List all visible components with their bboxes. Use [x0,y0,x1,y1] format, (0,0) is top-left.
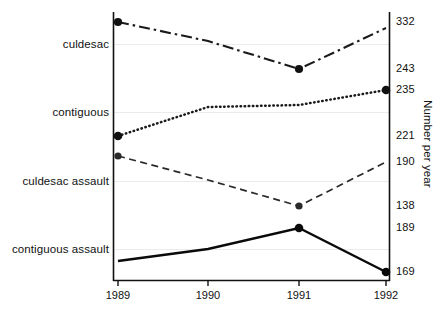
series-label-contiguous: contiguous [52,106,109,118]
x-tick-label-1990: 1990 [186,289,230,301]
chart-container: culdesac contiguous culdesac assault con… [0,0,443,314]
right-tick-189: 189 [396,221,415,233]
data-point-culdesac-1989 [114,18,122,26]
right-tick-190: 190 [396,155,415,167]
data-point-contiguous-assault-1991 [295,224,304,233]
x-tick-label-1991: 1991 [277,289,321,301]
data-point-culdesac-assault-1989 [114,152,121,159]
right-tick-243: 243 [396,62,415,74]
data-point-contiguous-1989 [114,132,123,141]
gridlines [113,45,390,250]
data-point-contiguous-assault-1992 [382,268,391,277]
data-point-culdesac-assault-1991 [295,202,302,209]
data-point-contiguous-1992 [382,86,391,95]
right-tick-138: 138 [396,199,415,211]
right-tick-332: 332 [396,15,415,27]
right-tick-235: 235 [396,83,415,95]
x-tick-label-1989: 1989 [96,289,140,301]
data-point-culdesac-1991 [295,65,303,73]
series-label-contiguous-assault: contiguous assault [12,243,109,255]
series-label-culdesac-assault: culdesac assault [22,175,109,187]
right-tick-221: 221 [396,129,415,141]
series-line-culdesac [118,22,386,69]
right-tick-169: 169 [396,265,415,277]
y-axis-title: Number per year [422,100,434,188]
x-tick-label-1992: 1992 [364,289,408,301]
series-label-culdesac: culdesac [63,38,109,50]
